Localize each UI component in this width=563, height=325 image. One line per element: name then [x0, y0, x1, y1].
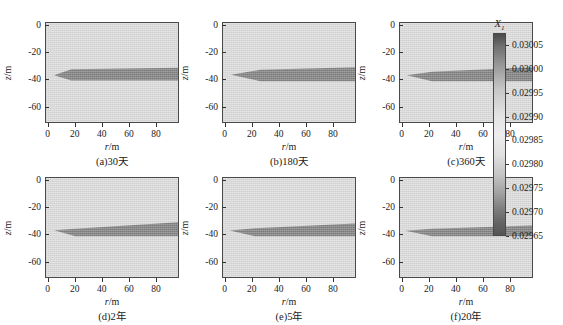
x-tick-a-1: [75, 123, 76, 127]
x-tick-a-4: [156, 123, 157, 127]
x-tick-e-1: [252, 278, 253, 282]
panel-caption-a: (a)30天: [96, 153, 128, 168]
x-tick-label-f-1: 20: [424, 284, 434, 294]
colorbar-tick-5: [506, 164, 509, 165]
y-tick-label-f-1: -20: [373, 202, 395, 212]
colorbar-tick-0: [506, 45, 509, 46]
x-tick-label-e-2: 40: [274, 284, 284, 294]
colorbar-tick-3: [506, 117, 509, 118]
x-tick-c-1: [429, 123, 430, 127]
x-tick-label-b-1: 20: [247, 129, 257, 139]
x-axis-title-a: r/m: [105, 141, 119, 152]
y-tick-label-c-3: -60: [373, 102, 395, 112]
plume-shape-b: [223, 23, 355, 122]
x-tick-label-a-1: 20: [70, 129, 80, 139]
y-tick-b-0: [222, 25, 226, 26]
x-tick-label-c-3: 60: [478, 129, 488, 139]
plume-shape-a: [46, 23, 178, 122]
x-tick-d-2: [102, 278, 103, 282]
x-tick-b-3: [306, 123, 307, 127]
x-tick-label-d-1: 20: [70, 284, 80, 294]
x-tick-a-2: [102, 123, 103, 127]
x-tick-label-b-0: 0: [222, 129, 227, 139]
x-tick-label-a-4: 80: [151, 129, 161, 139]
colorbar-label-0: 0.03005: [512, 40, 543, 50]
figure-root: 0204060800-20-40-60r/mz/m(a)30天020406080…: [0, 0, 563, 325]
y-axis-title-d: z/m: [2, 220, 13, 234]
x-tick-label-b-3: 60: [301, 129, 311, 139]
panel-caption-c: (c)360天: [447, 153, 484, 168]
y-tick-label-c-1: -20: [373, 47, 395, 57]
y-tick-b-1: [222, 52, 226, 53]
y-axis-title-b: z/m: [179, 65, 190, 79]
y-tick-label-d-0: 0: [19, 175, 41, 185]
y-tick-label-e-0: 0: [196, 175, 218, 185]
x-tick-f-1: [429, 278, 430, 282]
x-tick-label-f-3: 60: [478, 284, 488, 294]
colorbar: [493, 33, 506, 236]
x-axis-title-e: r/m: [282, 296, 296, 307]
plot-area-a: [45, 22, 179, 123]
y-tick-f-2: [399, 234, 403, 235]
colorbar-label-2: 0.02995: [512, 88, 543, 98]
y-tick-d-0: [45, 180, 49, 181]
x-axis-title-f: r/m: [459, 296, 473, 307]
colorbar-tick-1: [506, 69, 509, 70]
y-tick-b-3: [222, 107, 226, 108]
x-tick-label-a-2: 40: [97, 129, 107, 139]
x-tick-label-e-4: 80: [328, 284, 338, 294]
plume-shape-e: [223, 178, 355, 277]
y-tick-label-a-2: -40: [19, 74, 41, 84]
y-tick-f-1: [399, 207, 403, 208]
colorbar-tick-2: [506, 93, 509, 94]
x-tick-e-0: [225, 278, 226, 282]
colorbar-title: X1: [495, 18, 505, 32]
x-tick-label-a-3: 60: [124, 129, 134, 139]
x-tick-label-a-0: 0: [45, 129, 50, 139]
y-tick-f-0: [399, 180, 403, 181]
x-tick-c-3: [483, 123, 484, 127]
x-tick-e-4: [333, 278, 334, 282]
y-tick-label-c-2: -40: [373, 74, 395, 84]
colorbar-label-5: 0.02980: [512, 159, 543, 169]
y-tick-label-f-3: -60: [373, 257, 395, 267]
x-tick-b-0: [225, 123, 226, 127]
x-tick-label-e-0: 0: [222, 284, 227, 294]
y-tick-label-a-1: -20: [19, 47, 41, 57]
y-axis-title-a: z/m: [2, 65, 13, 79]
plot-area-b: [222, 22, 356, 123]
y-axis-title-e: z/m: [179, 220, 190, 234]
x-tick-b-1: [252, 123, 253, 127]
colorbar-label-3: 0.02990: [512, 112, 543, 122]
x-tick-b-2: [279, 123, 280, 127]
y-tick-f-3: [399, 262, 403, 263]
colorbar-tick-7: [506, 212, 509, 213]
y-tick-label-e-2: -40: [196, 229, 218, 239]
y-tick-label-b-3: -60: [196, 102, 218, 112]
y-tick-c-0: [399, 25, 403, 26]
colorbar-label-8: 0.02965: [512, 231, 543, 241]
y-tick-label-b-2: -40: [196, 74, 218, 84]
x-tick-e-3: [306, 278, 307, 282]
panel-caption-f: (f)20年: [451, 308, 482, 323]
y-tick-e-0: [222, 180, 226, 181]
x-tick-label-c-0: 0: [399, 129, 404, 139]
x-tick-e-2: [279, 278, 280, 282]
y-tick-c-2: [399, 79, 403, 80]
x-tick-label-e-1: 20: [247, 284, 257, 294]
y-tick-label-e-1: -20: [196, 202, 218, 212]
y-tick-e-2: [222, 234, 226, 235]
colorbar-label-4: 0.02985: [512, 135, 543, 145]
x-tick-f-2: [456, 278, 457, 282]
x-axis-title-b: r/m: [282, 141, 296, 152]
x-tick-f-0: [402, 278, 403, 282]
x-tick-label-f-4: 80: [505, 284, 515, 294]
colorbar-tick-8: [506, 236, 509, 237]
y-tick-label-d-1: -20: [19, 202, 41, 212]
colorbar-label-6: 0.02975: [512, 183, 543, 193]
y-tick-label-f-0: 0: [373, 175, 395, 185]
x-tick-b-4: [333, 123, 334, 127]
y-tick-d-3: [45, 262, 49, 263]
x-tick-d-3: [129, 278, 130, 282]
x-tick-d-0: [48, 278, 49, 282]
